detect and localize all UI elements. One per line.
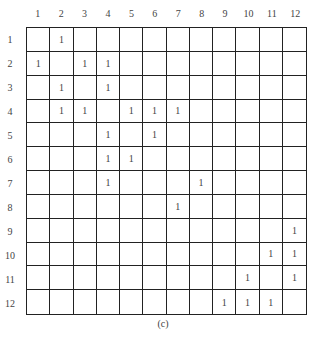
matrix-cell (260, 147, 283, 171)
matrix-cell: 1 (283, 243, 306, 267)
matrix-cell: 1 (97, 147, 120, 171)
row-label: 10 (0, 243, 26, 267)
matrix-cell (283, 76, 306, 100)
matrix-cell (143, 195, 166, 219)
matrix-cell: 1 (143, 100, 166, 124)
column-label: 9 (213, 8, 236, 22)
column-label: 2 (49, 8, 72, 22)
matrix-cell (50, 171, 73, 195)
matrix-cell (27, 76, 50, 100)
matrix-cell (143, 243, 166, 267)
matrix-cell: 1 (97, 123, 120, 147)
matrix-cell (120, 266, 143, 290)
matrix-cell (50, 52, 73, 76)
matrix-cell (27, 195, 50, 219)
row-labels: 123456789101112 (0, 27, 26, 315)
matrix-cell (74, 171, 97, 195)
row-label: 8 (0, 195, 26, 219)
matrix-cell (167, 28, 190, 52)
matrix-cell (213, 52, 236, 76)
matrix-cell: 1 (97, 52, 120, 76)
row-label: 2 (0, 51, 26, 75)
matrix-cell (260, 100, 283, 124)
matrix-cell (190, 219, 213, 243)
matrix-cell (236, 123, 259, 147)
matrix-cell (27, 100, 50, 124)
matrix-cell (120, 219, 143, 243)
column-label: 4 (96, 8, 119, 22)
column-label: 5 (120, 8, 143, 22)
matrix-cell (190, 123, 213, 147)
matrix-cell (50, 290, 73, 314)
column-label: 8 (190, 8, 213, 22)
row-label: 9 (0, 219, 26, 243)
matrix-cell (260, 219, 283, 243)
matrix-cell: 1 (167, 195, 190, 219)
matrix-cell (283, 290, 306, 314)
matrix-cell (97, 290, 120, 314)
matrix-cell (236, 52, 259, 76)
matrix-cell: 1 (213, 290, 236, 314)
matrix-cell (236, 28, 259, 52)
matrix-cell (143, 219, 166, 243)
adjacency-matrix-grid: 11111111111111111111111111 (26, 27, 307, 315)
matrix-cell (27, 290, 50, 314)
matrix-cell (167, 266, 190, 290)
matrix-cell (120, 195, 143, 219)
matrix-cell (213, 76, 236, 100)
matrix-cell (283, 28, 306, 52)
matrix-cell (74, 195, 97, 219)
matrix-cell (74, 147, 97, 171)
matrix-cell (97, 195, 120, 219)
matrix-cell (283, 123, 306, 147)
matrix-cell (143, 76, 166, 100)
matrix-cell (27, 219, 50, 243)
matrix-cell (120, 171, 143, 195)
matrix-cell: 1 (50, 100, 73, 124)
row-label: 12 (0, 291, 26, 315)
matrix-cell: 1 (260, 243, 283, 267)
matrix-cell (27, 266, 50, 290)
matrix-cell: 1 (97, 76, 120, 100)
matrix-cell (260, 266, 283, 290)
matrix-cell (50, 123, 73, 147)
matrix-cell (97, 219, 120, 243)
matrix-cell (50, 195, 73, 219)
matrix-cell (260, 195, 283, 219)
column-label: 1 (26, 8, 49, 22)
matrix-cell (74, 219, 97, 243)
matrix-cell (236, 100, 259, 124)
matrix-cell (50, 147, 73, 171)
matrix-cell (260, 28, 283, 52)
matrix-cell (283, 195, 306, 219)
matrix-cell (120, 243, 143, 267)
matrix-cell: 1 (50, 28, 73, 52)
matrix-cell (283, 171, 306, 195)
matrix-cell (283, 52, 306, 76)
matrix-cell (213, 147, 236, 171)
matrix-cell (74, 76, 97, 100)
matrix-cell (50, 243, 73, 267)
matrix-cell (236, 171, 259, 195)
matrix-cell (74, 28, 97, 52)
matrix-cell (167, 76, 190, 100)
matrix-cell (167, 171, 190, 195)
matrix-cell (283, 100, 306, 124)
row-label: 3 (0, 75, 26, 99)
matrix-cell (190, 243, 213, 267)
matrix-cell (167, 147, 190, 171)
row-label: 4 (0, 99, 26, 123)
matrix-cell (213, 266, 236, 290)
matrix-cell (97, 100, 120, 124)
matrix-cell (143, 290, 166, 314)
matrix-cell: 1 (120, 100, 143, 124)
matrix-cell (260, 52, 283, 76)
matrix-cell (213, 243, 236, 267)
matrix-cell (236, 219, 259, 243)
matrix-cell (97, 243, 120, 267)
matrix-cell (143, 52, 166, 76)
column-label: 3 (73, 8, 96, 22)
matrix-cell: 1 (283, 219, 306, 243)
matrix-cell (143, 266, 166, 290)
column-label: 6 (143, 8, 166, 22)
